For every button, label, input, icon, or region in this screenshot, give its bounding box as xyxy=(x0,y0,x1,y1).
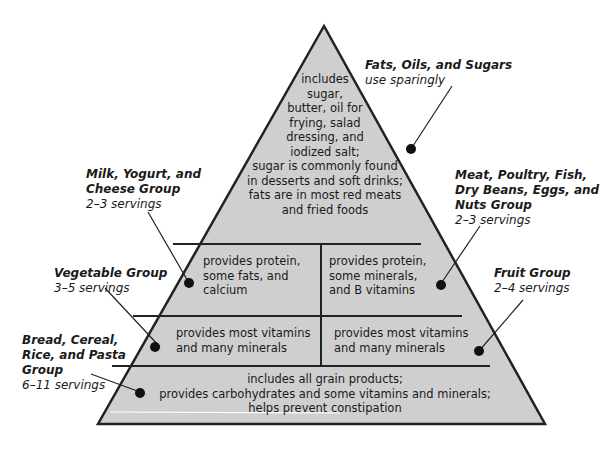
tier-vegetable-text: provides most vitaminsand many minerals xyxy=(176,326,321,355)
label-fats: Fats, Oils, and Sugarsuse sparingly xyxy=(365,58,512,88)
milk-marker-dot xyxy=(184,278,194,288)
tier-milk-text: provides protein,some fats, andcalcium xyxy=(203,254,318,298)
label-milk: Milk, Yogurt, andCheese Group2–3 serving… xyxy=(86,167,201,212)
vegetable-marker-dot xyxy=(150,342,160,352)
label-meat: Meat, Poultry, Fish,Dry Beans, Eggs, and… xyxy=(455,168,599,228)
tier-meat-text: provides protein,some minerals,and B vit… xyxy=(329,254,449,298)
label-vegetable: Vegetable Group3–5 servings xyxy=(54,266,167,296)
tier-top-text-lower: sugar is commonly foundin desserts and s… xyxy=(230,159,420,217)
grain-marker-dot xyxy=(135,388,145,398)
label-grain: Bread, Cereal,Rice, and PastaGroup6–11 s… xyxy=(22,333,126,393)
tier-fruit-text: provides most vitaminsand many minerals xyxy=(334,326,479,355)
tier-grain-text: includes all grain products;provides car… xyxy=(150,372,500,416)
label-fruit: Fruit Group2–4 servings xyxy=(494,266,571,296)
